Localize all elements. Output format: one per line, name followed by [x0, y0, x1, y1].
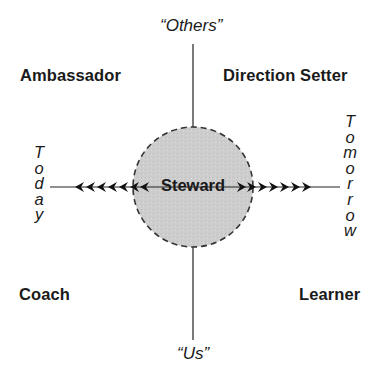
- quadrant-coach: Coach: [19, 285, 70, 304]
- axis-label-us: “Us”: [177, 344, 209, 364]
- axis-label-tomorrow: T o m o r r o w: [342, 114, 358, 239]
- tomorrow-letter: w: [344, 223, 356, 239]
- quadrant-ambassador: Ambassador: [20, 66, 121, 85]
- axis-label-others: “Others”: [160, 16, 222, 36]
- center-label-steward: Steward: [148, 176, 238, 195]
- quadrant-direction-setter: Direction Setter: [223, 66, 347, 85]
- quadrant-learner: Learner: [299, 285, 360, 304]
- today-letter: y: [35, 207, 43, 223]
- steward-diagram: Steward “Others” “Us” Ambassador Directi…: [0, 0, 385, 385]
- axis-label-today: T o d a y: [32, 145, 46, 223]
